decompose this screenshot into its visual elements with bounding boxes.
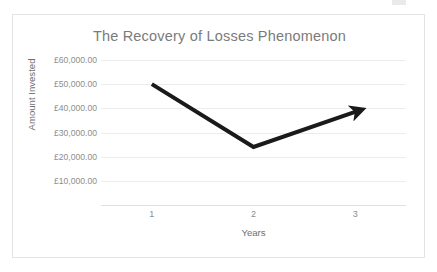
x-axis-tick-label: 3 xyxy=(335,209,375,219)
x-axis-tick-label: 2 xyxy=(234,209,274,219)
y-axis-tick-label: £50,000.00 xyxy=(17,79,97,89)
x-axis-tick-labels: 123 xyxy=(101,209,406,225)
scan-artifact xyxy=(392,0,406,5)
y-axis-tick-label: £10,000.00 xyxy=(17,176,97,186)
x-axis-tick-label: 1 xyxy=(132,209,172,219)
x-axis-line xyxy=(101,205,406,206)
gridline xyxy=(101,133,406,134)
gridline xyxy=(101,84,406,85)
gridline xyxy=(101,157,406,158)
y-axis-tick-label: £20,000.00 xyxy=(17,152,97,162)
gridline xyxy=(101,181,406,182)
plot-area xyxy=(101,60,406,205)
y-axis-tick-label: £30,000.00 xyxy=(17,128,97,138)
y-axis-tick-labels: £60,000.00£50,000.00£40,000.00£30,000.00… xyxy=(13,60,97,205)
chart-container: The Recovery of Losses Phenomenon Amount… xyxy=(12,14,425,258)
chart-title: The Recovery of Losses Phenomenon xyxy=(13,28,426,44)
y-axis-tick-label: £40,000.00 xyxy=(17,103,97,113)
x-axis-title: Years xyxy=(101,227,406,238)
y-axis-tick-label: £60,000.00 xyxy=(17,55,97,65)
gridline xyxy=(101,60,406,61)
gridline xyxy=(101,108,406,109)
